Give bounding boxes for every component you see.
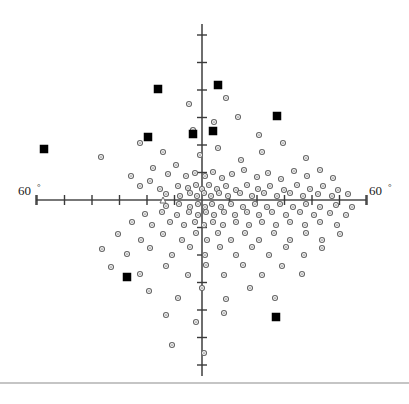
data-point-circle-core [319,221,321,223]
data-point-circle-core [329,212,331,214]
data-point-circle-core [263,192,265,194]
data-point-circle-core [144,213,146,215]
data-point-circle-core [240,159,242,161]
data-point-circle-core [177,185,179,187]
data-point-circle-core [208,184,210,186]
data-point-circle-core [305,232,307,234]
data-point-circle-core [261,221,263,223]
data-point-circle-core [257,188,259,190]
data-point-circle-core [317,193,319,195]
data-point-circle-core [336,224,338,226]
data-point-circle-core [194,221,196,223]
data-point-circle-core [303,254,305,256]
data-point-square [154,85,162,93]
data-point-circle-core [165,314,167,316]
data-point-circle-core [251,195,253,197]
data-point-circle-core [189,192,191,194]
data-point-circle-core [210,195,212,197]
data-point-circle-core [280,178,282,180]
data-point-circle-core [337,189,339,191]
data-point-square [272,313,280,321]
data-point-circle-core [273,232,275,234]
data-point-circle-core [279,203,281,205]
data-point-circle-core [276,195,278,197]
data-point-circle-core [332,177,334,179]
data-point-circle-core [195,232,197,234]
data-point-circle-core [197,214,199,216]
data-point-circle-core [339,233,341,235]
data-point-circle-core [139,142,141,144]
left-axis-value-text: 60 [18,183,31,198]
data-point-circle-core [321,239,323,241]
data-point-circle-core [159,188,161,190]
data-point-circle-core [244,232,246,234]
data-point-circle-core [196,195,198,197]
data-point-circle-core [269,185,271,187]
data-point-circle-core [139,273,141,275]
data-point-circle-core [313,214,315,216]
data-point-circle-core [246,211,248,213]
data-point-circle-core [275,224,277,226]
data-point-circle-core [230,203,232,205]
data-point-circle-core [283,189,285,191]
data-point-circle-core [271,211,273,213]
data-point-square [40,145,48,153]
data-point-circle-core [235,221,237,223]
series-open-circles [99,96,355,356]
data-point-circle-core [239,192,241,194]
scatter-plot-figure: 60 ° 60 ° [0,0,409,404]
data-point-circle-core [223,274,225,276]
data-point-circle-core [347,193,349,195]
data-point-circle-core [285,214,287,216]
data-point-circle-core [319,169,321,171]
data-point-circle-core [205,264,207,266]
data-point-circle-core [187,274,189,276]
data-point-circle-core [302,195,304,197]
data-point-circle-core [235,189,237,191]
data-point-circle-core [331,195,333,197]
data-point-circle-core [296,184,298,186]
data-point-circle-core [212,221,214,223]
left-axis-degree-symbol: ° [37,182,41,192]
data-point-circle-core [188,211,190,213]
data-point-circle-core [242,206,244,208]
data-point-circle-core [187,187,189,189]
data-point-circle-core [195,184,197,186]
data-point-circle-core [161,211,163,213]
data-point-circle-core [189,246,191,248]
data-point-circle-core [216,188,218,190]
data-point-circle-core [220,206,222,208]
data-point-circle-core [162,233,164,235]
data-point-circle-core [169,221,171,223]
data-point-circle-core [181,239,183,241]
data-point-square [189,130,197,138]
data-point-circle-core [217,147,219,149]
data-point-circle-core [189,206,191,208]
data-point-circle-core [304,224,306,226]
data-point-circle-core [230,239,232,241]
data-point-circle-core [179,195,181,197]
data-point-circle-core [165,265,167,267]
data-point-circle-core [139,185,141,187]
data-point-circle-core [335,204,337,206]
data-point-circle-core [117,233,119,235]
data-point-circle-core [289,239,291,241]
data-point-circle-core [345,214,347,216]
axes-group [36,24,366,376]
data-point-circle-core [130,175,132,177]
data-markers-group [40,81,355,356]
data-point-circle-core [205,211,207,213]
data-point-circle-core [219,246,221,248]
data-point-circle-core [194,172,196,174]
data-point-square [214,81,222,89]
data-point-circle-core [268,254,270,256]
data-point-circle-core [201,287,203,289]
data-point-circle-core [289,221,291,223]
data-point-circle-core [203,192,205,194]
data-point-circle-core [285,246,287,248]
data-point-circle-core [223,312,225,314]
data-point-circle-core [211,203,213,205]
data-point-circle-core [237,116,239,118]
right-axis-value-text: 60 [369,183,382,198]
data-point-circle-core [258,214,260,216]
